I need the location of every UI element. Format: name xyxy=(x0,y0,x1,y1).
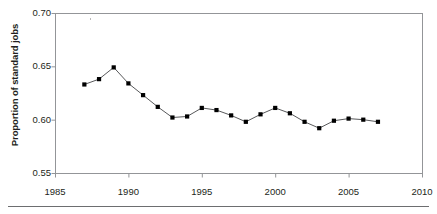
data-point-marker xyxy=(185,114,189,118)
data-point-marker xyxy=(126,81,130,85)
data-point-marker xyxy=(112,65,116,69)
x-tick-label: 1985 xyxy=(44,186,65,197)
data-point-marker xyxy=(273,106,277,110)
plot-area xyxy=(0,0,437,214)
x-tick-label: 2010 xyxy=(411,186,432,197)
data-point-marker xyxy=(376,120,380,124)
data-point-marker xyxy=(170,115,174,119)
x-axis-tick-labels: 198519901995200020052010 xyxy=(0,186,437,200)
speck-artifact xyxy=(90,18,91,20)
data-point-marker xyxy=(288,111,292,115)
data-point-marker xyxy=(302,120,306,124)
data-point-marker xyxy=(156,105,160,109)
data-point-marker xyxy=(141,93,145,97)
x-tick-label: 2000 xyxy=(265,186,286,197)
data-point-marker xyxy=(200,106,204,110)
x-tick-label: 2005 xyxy=(338,186,359,197)
data-point-marker xyxy=(97,77,101,81)
x-tick-label: 1995 xyxy=(191,186,212,197)
data-point-marker xyxy=(214,108,218,112)
chart-figure: Proportion of standard jobs 0.550.600.65… xyxy=(0,0,437,214)
data-point-marker xyxy=(347,117,351,121)
footer-divider xyxy=(8,206,429,207)
data-point-marker xyxy=(82,82,86,86)
plot-frame xyxy=(56,14,423,174)
data-point-marker xyxy=(244,120,248,124)
x-tick-label: 1990 xyxy=(118,186,139,197)
data-point-marker xyxy=(332,119,336,123)
data-point-marker xyxy=(229,113,233,117)
data-point-marker xyxy=(258,112,262,116)
data-point-marker xyxy=(361,118,365,122)
data-point-marker xyxy=(317,126,321,130)
